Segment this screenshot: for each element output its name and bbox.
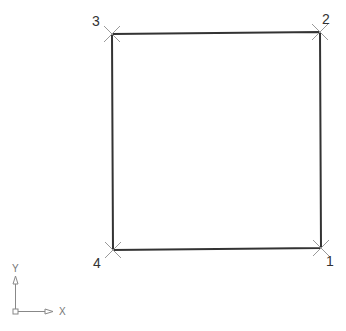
- ucs-y-label: Y: [12, 263, 19, 274]
- ucs-x-label: X: [59, 306, 66, 317]
- vertex-label-3: 3: [92, 13, 100, 29]
- square-outline: [112, 32, 321, 250]
- vertex-label-2: 2: [322, 11, 330, 27]
- vertex-label-4: 4: [93, 255, 101, 271]
- drawing-canvas: 1 2 3 4 Y X: [0, 0, 346, 331]
- vertex-label-1: 1: [326, 253, 334, 269]
- ucs-icon: [13, 276, 53, 314]
